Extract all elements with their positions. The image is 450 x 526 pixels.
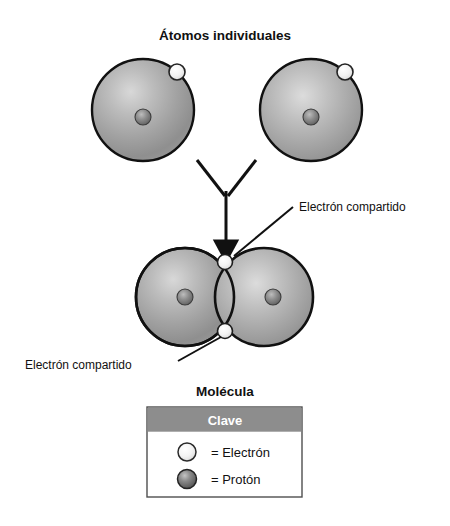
diagram-canvas: Átomos individuales bbox=[0, 0, 450, 526]
legend: Clave = Electrón = Protón bbox=[147, 407, 302, 497]
molecule-right-proton bbox=[265, 289, 281, 305]
callout-top-label: Electrón compartido bbox=[299, 200, 406, 214]
molecule-left-proton bbox=[177, 289, 193, 305]
legend-electron-label: = Electrón bbox=[211, 445, 270, 460]
individual-atoms-group bbox=[92, 59, 362, 161]
right-atom bbox=[260, 59, 362, 161]
arrow-right-branch bbox=[228, 160, 256, 196]
combine-arrow bbox=[197, 160, 256, 243]
arrow-left-branch bbox=[197, 160, 225, 196]
molecule-title: Molécula bbox=[196, 384, 254, 399]
left-atom-electron bbox=[169, 64, 185, 80]
shared-electron-top bbox=[218, 255, 233, 270]
legend-electron: = Electrón bbox=[178, 443, 270, 461]
right-atom-electron bbox=[337, 64, 353, 80]
electron-sphere-icon bbox=[178, 443, 196, 461]
legend-proton: = Protón bbox=[178, 470, 261, 489]
callout-bottom-label: Electrón compartido bbox=[25, 358, 132, 372]
left-atom bbox=[92, 59, 194, 161]
covalent-bond-diagram: Átomos individuales bbox=[0, 0, 450, 526]
molecule-group bbox=[136, 248, 313, 346]
legend-proton-label: = Protón bbox=[211, 472, 261, 487]
shared-electron-bottom bbox=[218, 324, 233, 339]
left-atom-proton bbox=[135, 109, 151, 125]
right-atom-proton bbox=[303, 109, 319, 125]
legend-title: Clave bbox=[208, 413, 243, 428]
page-title: Átomos individuales bbox=[159, 28, 291, 43]
proton-sphere-icon bbox=[178, 470, 197, 489]
